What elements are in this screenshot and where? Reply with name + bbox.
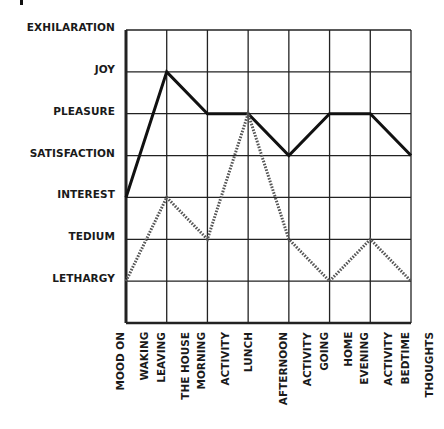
mood-line-chart [0,0,444,429]
